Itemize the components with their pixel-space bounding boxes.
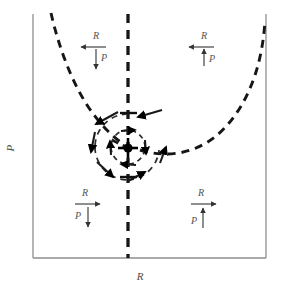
- quadrant-bottom-right-r-label: R: [197, 187, 204, 198]
- quadrant-bottom-right: R P: [190, 187, 216, 228]
- quadrant-top-right-p-label: P: [208, 53, 215, 64]
- inner-spiral-arrow-top: [121, 130, 135, 131]
- inner-spiral-arrow-right: [145, 140, 146, 154]
- quadrant-bottom-left-p-label: P: [74, 210, 81, 221]
- spiral-arrow-top-right: [138, 110, 162, 117]
- phase-plane-figure: P R: [0, 0, 283, 291]
- quadrant-top-left: R P: [81, 30, 107, 69]
- axes-group: [33, 14, 266, 258]
- nullclines-group: [51, 13, 265, 258]
- equilibrium-point-group: [118, 138, 138, 158]
- left-descending-nullcline: [51, 13, 122, 143]
- quadrant-top-left-r-label: R: [92, 30, 99, 41]
- quadrant-bottom-left-r-label: R: [81, 187, 88, 198]
- inner-spiral-arrow-left: [110, 141, 111, 155]
- y-axis-label: P: [4, 144, 16, 152]
- inner-spiral-arrow-bottom: [121, 164, 136, 165]
- spiral-arrow-lower-left: [97, 162, 113, 177]
- quadrant-bottom-left: R P: [74, 187, 100, 227]
- quadrant-top-left-p-label: P: [100, 52, 107, 63]
- quadrant-bottom-right-p-label: P: [190, 215, 197, 226]
- inner-spiral-arc-2: [133, 131, 145, 147]
- quadrant-top-right: R P: [189, 30, 215, 66]
- equilibrium-point-dot: [123, 143, 132, 152]
- x-axis-label: R: [136, 270, 144, 282]
- quadrant-top-right-r-label: R: [200, 30, 207, 41]
- phase-plane-canvas: P R: [0, 0, 283, 291]
